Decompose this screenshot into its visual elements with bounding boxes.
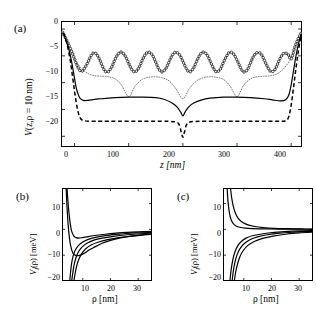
panel-a-tag: (a) [14,22,26,34]
panel-b-ytick-3: −20 [36,273,60,282]
panel-a-xtick-4: 400 [270,150,290,159]
panel-a-ytick-4: −20 [34,117,58,126]
panel-a-plot [61,21,302,147]
panel-c-ytick-2: −10 [197,250,221,259]
panel-b-ytick-0: 10 [42,203,60,212]
panel-b-ylabel-sub: l [33,268,40,270]
panel-a-xtick-1: 100 [103,150,123,159]
panel-b-xtick-1: 20 [104,284,118,293]
panel-b-xtick-2: 30 [130,284,144,293]
panel-c-ytick-1: 0 [203,229,221,238]
panel-a-ytick-0: 0 [44,17,58,26]
panel-a-xlabel: z [nm] [160,160,185,170]
panel-c-ytick-0: 10 [203,203,221,212]
panel-b-ylabel-args: (ρ) [28,258,38,268]
panel-a-ylabel-args: (z,ρ = 10 nm) [24,78,34,130]
panel-b-tag: (b) [16,190,29,202]
panel-b-xlabel: ρ [nm] [92,294,118,304]
panel-a-ytick-2: −10 [34,67,58,76]
panel-a-xtick-0: 0 [58,150,74,159]
panel-b-plot [62,188,152,281]
panel-c-ylabel-args: (ρ) [189,258,199,268]
panel-a-ytick-1: −5 [38,42,58,51]
panel-a-ylabel-v: V [24,130,34,136]
panel-c-xtick-1: 20 [265,284,279,293]
panel-b-ytick-1: 0 [42,229,60,238]
panel-c-plot [223,188,313,281]
panel-a-ytick-3: −15 [34,92,58,101]
panel-b-xtick-0: 10 [78,284,92,293]
panel-a-xlabel-text: z [nm] [160,160,185,170]
panel-b-ytick-2: −10 [36,250,60,259]
panel-c-ylabel-sub: l [194,268,201,270]
panel-c-tag: (c) [177,190,189,202]
panel-c-xtick-2: 30 [291,284,305,293]
panel-a-ylabel: V(z,ρ = 10 nm) [24,78,34,136]
panel-a-xtick-3: 300 [214,150,234,159]
figure-root: (a) V(z,ρ = 10 nm) 0 −5 −10 −15 −20 0 10… [0,0,316,323]
panel-a-xtick-2: 200 [159,150,179,159]
panel-c-xtick-0: 10 [239,284,253,293]
panel-c-ytick-3: −20 [197,273,221,282]
panel-c-xlabel: ρ [nm] [253,294,279,304]
